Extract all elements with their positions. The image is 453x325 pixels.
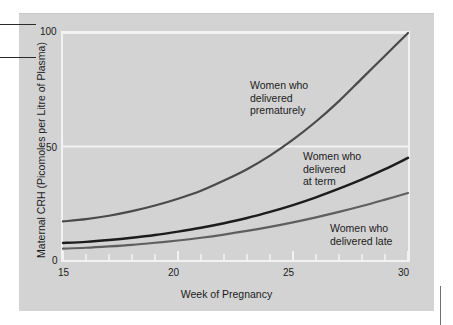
y-axis-title: Maternal CRH (Picomoles per Litre of Pla… (35, 30, 47, 270)
series-annotation-late: Women who delivered late (330, 222, 392, 247)
x-tick-label-20: 20 (168, 268, 179, 278)
x-tick-label-25: 25 (283, 268, 294, 278)
series-annotation-at-term: Women who delivered at term (303, 150, 361, 188)
panel-top-edge (19, 13, 434, 14)
x-axis-title: Week of Pregnancy (0, 288, 453, 300)
figure-root: 100 50 0 15 20 25 30 Week of Pregnancy M… (0, 0, 453, 325)
margin-rule-top (0, 24, 36, 25)
y-tick-label-0: 0 (52, 256, 58, 266)
series-line-0 (63, 33, 408, 221)
y-tick-label-50: 50 (46, 143, 57, 153)
x-tick-label-30: 30 (398, 268, 409, 278)
series-annotation-premature: Women who delivered prematurely (250, 79, 308, 117)
margin-rule-bottom (0, 57, 36, 58)
x-tick-label-15: 15 (58, 268, 69, 278)
